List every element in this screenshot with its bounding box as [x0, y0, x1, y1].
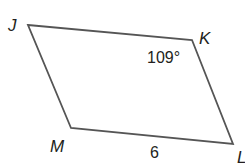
vertex-label-m: M	[50, 137, 65, 156]
vertex-label-l: L	[237, 148, 245, 163]
side-ml-length: 6	[150, 144, 159, 161]
angle-k-label: 109°	[147, 49, 180, 66]
vertex-label-k: K	[199, 29, 211, 48]
vertex-label-j: J	[7, 16, 17, 35]
parallelogram-diagram: J K 109° M 6 L	[0, 0, 245, 163]
